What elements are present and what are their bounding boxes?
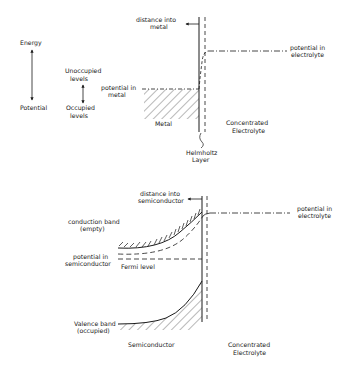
conduction-band-hatching — [119, 209, 200, 247]
metal-region — [144, 89, 199, 119]
distance-into-sc-2: semiconductor — [138, 197, 184, 204]
valence-band-label-1: Valence band — [74, 320, 116, 327]
valence-band-region — [118, 281, 202, 330]
band-diagram: Energy Potential Unoccupied levels Occup… — [0, 0, 355, 365]
potential-in-sc-2: semiconductor — [65, 260, 111, 267]
semiconductor-label: Semiconductor — [128, 341, 175, 348]
distance-into-metal-2: metal — [150, 23, 168, 30]
energy-label: Energy — [20, 39, 42, 47]
electrolyte-label-2: Electrolyte — [232, 127, 265, 135]
conduction-band-label-2: (empty) — [80, 225, 105, 233]
metal-label: Metal — [155, 120, 172, 127]
unoccupied-label-2: levels — [70, 75, 88, 82]
electrolyte-label-1: Concentrated — [226, 119, 268, 126]
helmholtz-pointer — [200, 133, 204, 148]
electrolyte-label-sc-1: Concentrated — [228, 341, 270, 348]
distance-into-metal-1: distance into — [136, 16, 176, 23]
potential-drop-curve — [199, 51, 208, 89]
occupied-label-2: levels — [70, 112, 88, 119]
helmholtz-label-1: Helmholtz — [186, 149, 217, 156]
unoccupied-label-1: Unoccupied — [65, 67, 101, 75]
helmholtz-label-2: Layer — [192, 156, 210, 164]
conduction-band-label-1: conduction band — [68, 218, 120, 225]
distance-into-sc-1: distance into — [140, 190, 180, 197]
metal-diagram: distance into metal potential in metal p… — [101, 16, 325, 164]
legend: Energy Potential Unoccupied levels Occup… — [20, 39, 101, 119]
semiconductor-diagram: distance into semiconductor conduction b… — [65, 190, 332, 357]
potential-in-metal-2: metal — [108, 91, 126, 98]
valence-band-label-2: (occupied) — [77, 327, 110, 335]
sc-potential-drop — [203, 213, 210, 216]
potential-in-electrolyte-2: electrolyte — [291, 51, 324, 59]
conduction-band-curve — [118, 212, 202, 248]
potential-in-electrolyte-sc-2: electrolyte — [298, 212, 331, 220]
electrolyte-label-sc-2: Electrolyte — [233, 349, 266, 357]
occupied-label-1: Occupied — [66, 104, 95, 112]
potential-label: Potential — [20, 104, 47, 111]
fermi-level-label: Fermi level — [121, 263, 155, 270]
